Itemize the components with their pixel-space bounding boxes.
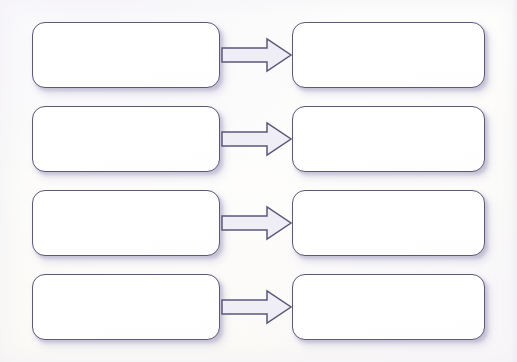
arrow-1[interactable] — [221, 36, 293, 74]
arrow-right-icon — [222, 39, 291, 71]
arrow-right-icon — [222, 291, 291, 323]
left-box-3[interactable] — [32, 190, 220, 256]
right-box-3[interactable] — [292, 190, 485, 256]
right-box-1[interactable] — [292, 22, 485, 88]
arrow-2[interactable] — [221, 120, 293, 158]
arrow-4[interactable] — [221, 288, 293, 326]
diagram-row-4 — [0, 274, 517, 344]
arrow-right-icon — [222, 123, 291, 155]
arrow-right-icon — [222, 207, 291, 239]
left-box-4[interactable] — [32, 274, 220, 340]
diagram-row-3 — [0, 190, 517, 260]
right-box-2[interactable] — [292, 106, 485, 172]
diagram-row-1 — [0, 22, 517, 92]
right-box-4[interactable] — [292, 274, 485, 340]
left-box-2[interactable] — [32, 106, 220, 172]
arrow-3[interactable] — [221, 204, 293, 242]
diagram-canvas — [0, 0, 517, 362]
left-box-1[interactable] — [32, 22, 220, 88]
diagram-row-2 — [0, 106, 517, 176]
